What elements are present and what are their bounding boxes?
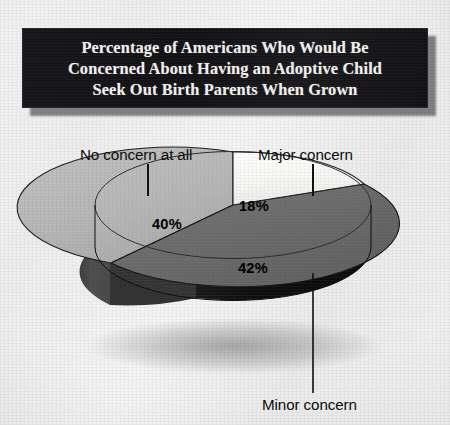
title-line-1: Percentage of Americans Who Would Be — [81, 38, 368, 57]
label-major-concern: Major concern — [258, 146, 353, 163]
chart-page: Percentage of Americans Who Would Be Con… — [0, 0, 450, 425]
title-plaque: Percentage of Americans Who Would Be Con… — [22, 28, 428, 108]
value-major-concern: 18% — [239, 198, 269, 214]
pie-texture-overlay — [95, 152, 371, 301]
value-minor-concern: 42% — [238, 260, 268, 276]
pie-chart-graphic — [0, 118, 450, 425]
pie-chart: No concern at all Major concern Minor co… — [0, 118, 450, 425]
page-title: Percentage of Americans Who Would Be Con… — [60, 37, 390, 100]
title-line-2: Concerned About Having an Adoptive Child — [68, 59, 382, 78]
label-no-concern-at-all: No concern at all — [80, 146, 192, 163]
pie-ground-shadow — [86, 318, 382, 374]
value-no-concern-at-all: 40% — [152, 216, 182, 232]
title-line-3: Seek Out Birth Parents When Grown — [92, 80, 357, 99]
label-minor-concern: Minor concern — [262, 396, 357, 413]
